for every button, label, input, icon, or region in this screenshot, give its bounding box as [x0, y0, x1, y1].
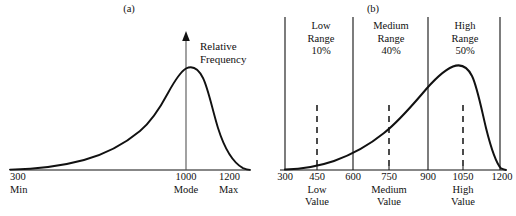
panel-b-range-label-high: High Range 50%	[432, 20, 498, 58]
panel-b-xtick-450: 450 Low Value	[297, 171, 337, 209]
panel-b-range-label-medium-line2: Range	[358, 33, 424, 46]
panel-b-xtick-1050-value: 1050	[441, 171, 485, 184]
panel-b-xtick-450-sub1: Low	[297, 184, 337, 197]
panel-b-xtick-1200: 1200	[482, 171, 516, 184]
panel-a-xtick-mode-value: 1000	[156, 171, 216, 184]
panel-a-distribution-curve	[10, 67, 250, 170]
panel-b-tick-marks	[317, 166, 463, 170]
panel-a-y-axis-label-line1: Relative	[200, 40, 246, 53]
panel-b-range-label-high-line2: Range	[432, 33, 498, 46]
panel-a: (a) Relative Frequency 300 Min 1000 Mode…	[0, 0, 258, 216]
panel-b-xtick-1050-sub2: Value	[441, 196, 485, 209]
panel-b-xtick-450-value: 450	[297, 171, 337, 184]
panel-b-range-label-high-line1: High	[432, 20, 498, 33]
panel-a-xtick-min: 300 Min	[0, 171, 70, 196]
panel-b-range-label-low-line2: Range	[289, 33, 353, 46]
panel-b-xtick-450-sub2: Value	[297, 196, 337, 209]
panel-b-range-label-low: Low Range 10%	[289, 20, 353, 58]
panel-b-range-label-low-pct: 10%	[289, 45, 353, 58]
panel-b-xtick-750-sub2: Value	[366, 196, 412, 209]
panel-b-xtick-1200-value: 1200	[482, 171, 516, 184]
panel-a-y-axis-label: Relative Frequency	[200, 40, 246, 66]
panel-a-xtick-min-sub: Min	[10, 184, 70, 197]
panel-a-axis-arrow-icon	[182, 31, 190, 41]
panel-b-xtick-750-sub1: Medium	[366, 184, 412, 197]
panel-b-xtick-1050: 1050 High Value	[441, 171, 485, 209]
panel-a-y-axis-label-line2: Frequency	[200, 53, 246, 66]
panel-b-xtick-1050-sub1: High	[441, 184, 485, 197]
panel-b-xtick-750-value: 750	[366, 171, 412, 184]
figure-container: (a) Relative Frequency 300 Min 1000 Mode…	[0, 0, 516, 216]
panel-b-range-label-medium: Medium Range 40%	[358, 20, 424, 58]
panel-a-xtick-min-value: 300	[10, 171, 70, 184]
panel-b-range-label-medium-line1: Medium	[358, 20, 424, 33]
panel-b-range-label-low-line1: Low	[289, 20, 353, 33]
panel-b-xtick-750: 750 Medium Value	[366, 171, 412, 209]
panel-b-range-label-medium-pct: 40%	[358, 45, 424, 58]
panel-b-distribution-curve	[285, 65, 506, 169]
panel-b-range-label-high-pct: 50%	[432, 45, 498, 58]
panel-a-xtick-mode-sub: Mode	[156, 184, 216, 197]
panel-b: (b) Low Range 10%	[258, 0, 516, 216]
panel-a-xtick-mode: 1000 Mode	[156, 171, 216, 196]
